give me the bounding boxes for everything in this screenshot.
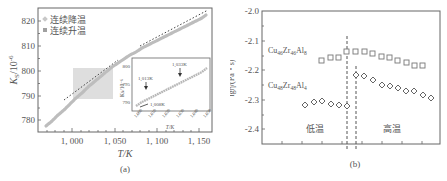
panel-a-x-ticks [47, 128, 199, 132]
panel-a-ytick-790: 790 [22, 91, 36, 101]
inset-xlabel: T/K [166, 124, 175, 130]
panel-b-ytick-2.1: -2.1 [245, 36, 259, 46]
panel-a-xtick-1050: 1, 050 [104, 136, 127, 146]
svg-text:KS/10-6: KS/10-6 [7, 55, 21, 86]
series-cu46-markers [319, 49, 425, 68]
panel-b-ytick-2.0: -2.0 [245, 6, 260, 16]
panel-a-ytick-800: 800 [22, 66, 36, 76]
panel-a-legend: 连续降温 连续升温 [42, 14, 86, 36]
legend-label-heating: 连续升温 [50, 25, 86, 36]
panel-a-chart: 820 810 800 790 780 1, 000 1, 050 1, 100… [0, 0, 230, 181]
panel-b-ytick-2.4: -2.4 [245, 124, 260, 134]
panel-a-xtick-1000: 1, 000 [61, 136, 84, 146]
inset-ytick-790: 790 [123, 100, 131, 105]
inset-ylabel: Ks/10⁻⁶ [119, 79, 125, 97]
inset-ytick-800: 800 [123, 64, 131, 69]
panel-a-ytick-780: 780 [22, 115, 36, 125]
panel-a-high-extrapolation [140, 10, 208, 46]
panel-b-ytick-2.3: -2.3 [245, 95, 260, 105]
panel-a-ytick-810: 810 [22, 41, 36, 51]
panel-b-ylabel: lgη/(Pa・s) [230, 59, 236, 96]
panel-a-ytick-820: 820 [22, 16, 36, 26]
panel-b-plot-area [262, 11, 440, 144]
panel-b-label: (b) [350, 159, 361, 169]
panel-a-inset: 800 795 790 Ks/10⁻⁶ 1,033K 1,013K 1,008K… [119, 58, 214, 130]
series-cu48-markers [302, 72, 434, 109]
panel-a-xtick-1100: 1, 100 [146, 136, 169, 146]
panel-a-label: (a) [120, 164, 130, 174]
panel-a-xtick-1150: 1, 150 [188, 136, 211, 146]
panel-b-ytick-2.2: -2.2 [245, 65, 259, 75]
legend-label-cooling: 连续降温 [50, 14, 86, 25]
high-temp-label: 高温 [383, 123, 401, 134]
panel-a-ylabel: KS/10-6 [7, 55, 21, 86]
low-temp-label: 低温 [306, 123, 324, 134]
panel-a-xlabel: T/K [117, 148, 133, 159]
panel-b-chart: -2.0 -2.1 -2.2 -2.3 -2.4 lgη/(Pa・s) Cu46… [230, 0, 447, 181]
series-label-cu48: Cu48Zr48Al4 [268, 81, 307, 91]
series-label-cu46: Cu46Zr46Al8 [268, 46, 307, 56]
